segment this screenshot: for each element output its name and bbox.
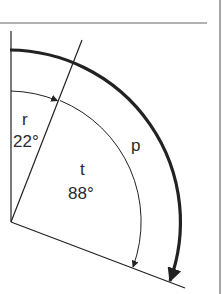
label-r: r (22, 110, 28, 129)
label-p: p (131, 136, 140, 155)
lower-ray-110 (11, 222, 185, 288)
label-t-angle: 88° (68, 184, 94, 203)
angle-diagram: r 22° t 88° p (0, 0, 222, 294)
arc-r (11, 91, 58, 101)
label-t: t (80, 160, 85, 179)
arc-p (10, 50, 180, 281)
label-r-angle: 22° (13, 132, 39, 151)
